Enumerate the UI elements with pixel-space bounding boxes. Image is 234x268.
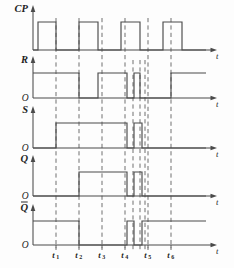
time-axis-label-R: t bbox=[216, 99, 219, 109]
signal-label-S: S bbox=[22, 104, 28, 115]
waveform-S bbox=[33, 123, 206, 148]
waveform-R bbox=[33, 73, 206, 98]
axis-arrow-up-Q bbox=[31, 155, 36, 162]
axis-arrow-up-CP bbox=[31, 5, 36, 12]
signal-axes bbox=[31, 5, 217, 247]
time-axis-label-Qbar: t bbox=[216, 246, 219, 256]
time-tick-label-t5: t5 bbox=[144, 250, 151, 261]
time-axis-label-CP: t bbox=[216, 51, 219, 61]
time-axis-label-S: t bbox=[216, 149, 219, 159]
axis-arrow-up-R bbox=[31, 56, 36, 63]
time-axis-labels: t1t2t3t4t5t6 bbox=[52, 245, 174, 260]
time-tick-label-t2: t2 bbox=[75, 250, 82, 261]
time-tick-label-sub-t4: 4 bbox=[125, 254, 128, 260]
time-tick-label-base-t4: t bbox=[121, 250, 124, 260]
time-tick-label-base-t5: t bbox=[144, 250, 147, 260]
waveform-Qbar bbox=[33, 221, 206, 245]
axis-arrow-up-Qbar bbox=[31, 204, 36, 211]
waveform-traces bbox=[33, 22, 206, 245]
time-tick-label-base-t6: t bbox=[167, 250, 170, 260]
origin-label-Qbar: O bbox=[22, 240, 29, 250]
time-tick-label-base-t2: t bbox=[75, 250, 78, 260]
time-tick-label-t3: t3 bbox=[98, 250, 105, 261]
timing-diagram-figure: tCPtROtSOtQOtQO t1t2t3t4t5t6 bbox=[0, 0, 234, 268]
time-tick-label-sub-t3: 3 bbox=[102, 254, 105, 260]
time-tick-label-sub-t5: 5 bbox=[148, 254, 151, 260]
time-tick-label-base-t3: t bbox=[98, 250, 101, 260]
origin-label-R: O bbox=[22, 93, 29, 103]
signal-label-Qbar: Q bbox=[20, 202, 28, 213]
timing-diagram-canvas: tCPtROtSOtQOtQO t1t2t3t4t5t6 bbox=[0, 0, 234, 268]
time-tick-label-sub-t6: 6 bbox=[171, 254, 174, 260]
signal-label-Q: Q bbox=[20, 153, 28, 164]
waveform-CP bbox=[33, 22, 206, 50]
time-marker-lines bbox=[56, 18, 171, 250]
signal-label-R: R bbox=[20, 54, 28, 65]
time-axis-label-Q: t bbox=[216, 197, 219, 207]
time-tick-label-t4: t4 bbox=[121, 250, 128, 261]
origin-label-S: O bbox=[22, 143, 29, 153]
axis-arrow-up-S bbox=[31, 106, 36, 113]
time-tick-label-sub-t2: 2 bbox=[79, 254, 82, 260]
signal-label-CP: CP bbox=[15, 3, 29, 14]
time-tick-label-t1: t1 bbox=[52, 250, 59, 261]
origin-label-Q: O bbox=[22, 191, 29, 201]
waveform-Q bbox=[33, 172, 206, 196]
signal-labels: tCPtROtSOtQOtQO bbox=[15, 3, 219, 256]
time-tick-label-sub-t1: 1 bbox=[56, 254, 59, 260]
time-tick-label-base-t1: t bbox=[52, 250, 55, 260]
time-tick-label-t6: t6 bbox=[167, 250, 174, 261]
